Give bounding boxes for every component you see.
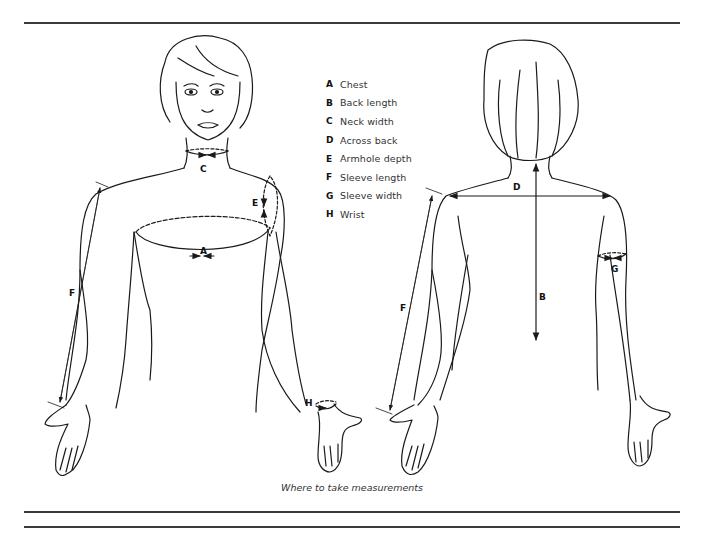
legend-key: B — [326, 98, 340, 108]
back-right-hand — [628, 396, 670, 466]
label-d-back: D — [513, 182, 520, 192]
label-b-back: B — [539, 292, 546, 302]
bottom-rule-2 — [24, 526, 680, 528]
legend-item-neck-width: C Neck width — [326, 112, 412, 131]
legend-item-sleeve-length: F Sleeve length — [326, 168, 412, 187]
legend-item-chest: A Chest — [326, 75, 412, 94]
label-f-front: F — [69, 288, 75, 298]
label-g-back: G — [611, 264, 618, 274]
figure-caption: Where to take measurements — [0, 482, 704, 493]
label-c-front: C — [200, 164, 207, 174]
legend-key: G — [326, 191, 340, 201]
legend-key: E — [326, 154, 340, 164]
front-torso — [66, 168, 184, 400]
legend-label: Sleeve length — [340, 172, 406, 183]
measurement-legend: A Chest B Back length C Neck width D Acr… — [326, 75, 412, 224]
legend-item-sleeve-width: G Sleeve width — [326, 187, 412, 206]
legend-label: Sleeve width — [340, 190, 402, 201]
front-hair — [160, 36, 252, 128]
legend-item-back-length: B Back length — [326, 94, 412, 113]
legend-label: Armhole depth — [340, 153, 412, 164]
legend-label: Wrist — [340, 209, 365, 220]
legend-label: Back length — [340, 97, 397, 108]
legend-item-across-back: D Across back — [326, 131, 412, 150]
label-a-front: A — [200, 246, 207, 256]
legend-label: Neck width — [340, 116, 394, 127]
label-h-front: H — [305, 398, 313, 408]
legend-label: Chest — [340, 79, 368, 90]
front-right-hand — [318, 404, 362, 472]
legend-key: H — [326, 209, 340, 219]
back-figure — [376, 40, 670, 474]
bottom-rule-1 — [24, 511, 680, 513]
label-f-back: F — [400, 303, 406, 313]
legend-key: F — [326, 172, 340, 182]
label-e-front: E — [252, 198, 258, 208]
legend-item-armhole-depth: E Armhole depth — [326, 149, 412, 168]
back-torso — [414, 178, 508, 400]
legend-item-wrist: H Wrist — [326, 205, 412, 224]
legend-label: Across back — [340, 135, 398, 146]
legend-key: C — [326, 116, 340, 126]
legend-key: A — [326, 79, 340, 89]
legend-key: D — [326, 135, 340, 145]
